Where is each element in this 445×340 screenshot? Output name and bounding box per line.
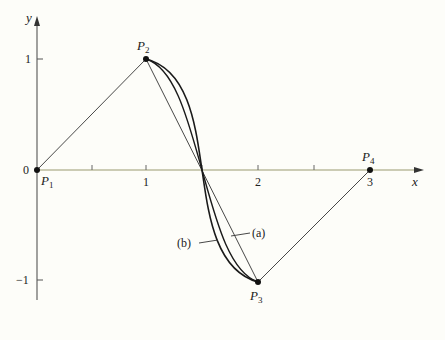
curve-label-a: (a) (252, 226, 265, 240)
point-label-p3: P3 (249, 288, 263, 305)
point-p4 (367, 167, 373, 173)
y-tick-label-1: 1 (25, 52, 31, 66)
points: P1 P2 P3 P4 (34, 38, 375, 305)
x-tick-label-2: 2 (255, 175, 261, 189)
y-tick-label-neg1: −1 (16, 273, 29, 287)
curve-label-b: (b) (177, 236, 191, 250)
y-axis-arrow-icon (34, 16, 40, 26)
origin-label: 0 (23, 163, 29, 177)
x-axis-label: x (411, 174, 418, 189)
point-p1 (34, 167, 40, 173)
point-label-p4: P4 (361, 149, 375, 166)
x-tick-label-1: 1 (143, 175, 149, 189)
x-tick-label-3: 3 (367, 175, 373, 189)
point-p3 (255, 279, 261, 285)
point-label-p2: P2 (136, 38, 149, 55)
point-label-p1: P1 (40, 173, 53, 190)
y-axis-label: y (24, 10, 32, 25)
point-p2 (143, 56, 149, 62)
y-axis: y 1 −1 (16, 10, 43, 300)
spline-diagram: y 1 −1 x 0 1 2 3 (a) (b) (0, 0, 445, 340)
curve-annotations: (a) (b) (177, 226, 265, 250)
x-axis-arrow-icon (414, 167, 424, 173)
